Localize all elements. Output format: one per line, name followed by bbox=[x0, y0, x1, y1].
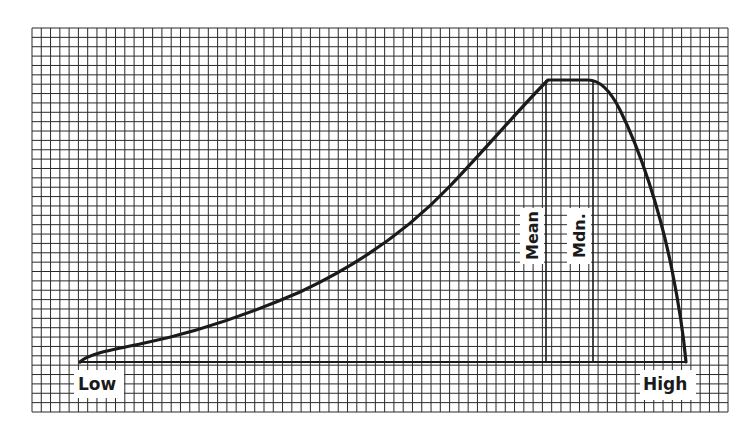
median-label: Mdn. bbox=[570, 213, 589, 258]
high-label: High bbox=[643, 374, 687, 394]
graph-paper-grid bbox=[32, 28, 728, 412]
skewed-distribution-diagram: Mean Mdn. Low High bbox=[0, 0, 751, 440]
mean-label: Mean bbox=[523, 211, 542, 260]
low-label: Low bbox=[78, 374, 117, 394]
